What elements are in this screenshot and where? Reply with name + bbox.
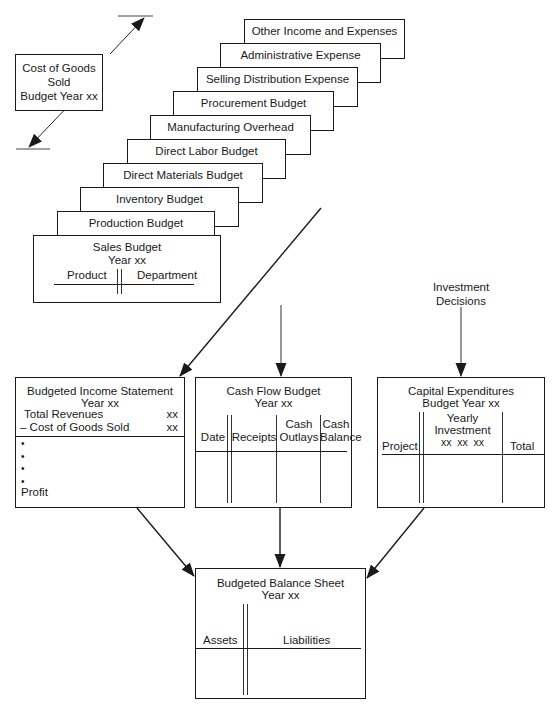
income-row-label: Total Revenues bbox=[24, 408, 103, 420]
stack-label: Direct Labor Budget bbox=[155, 145, 257, 157]
capex-col-yearly: Yearly Investment xx xx xx bbox=[423, 412, 502, 448]
investment-line-2: Decisions bbox=[421, 294, 501, 308]
col-line: Receipts bbox=[231, 431, 277, 444]
stack-label: Production Budget bbox=[89, 217, 184, 229]
col-line: Investment bbox=[423, 424, 502, 436]
col-line: xx xx xx bbox=[423, 436, 502, 448]
cash-col-date: Date bbox=[198, 418, 228, 444]
cash-col-outlays: Cash Outlays bbox=[277, 418, 321, 444]
sales-budget-year: Year xx bbox=[34, 253, 220, 267]
col-line: Balance bbox=[320, 431, 352, 444]
cash-col-balance: Cash Balance bbox=[320, 418, 352, 444]
balance-col-assets: Assets bbox=[203, 634, 238, 646]
sales-budget-box: Sales Budget Year xx Product Department bbox=[33, 235, 221, 303]
cash-header-rule bbox=[196, 451, 347, 452]
bullet: • bbox=[21, 451, 25, 464]
cash-flow-budget-box: Cash Flow Budget Year xx Date Receipts C… bbox=[195, 377, 352, 508]
balance-divider bbox=[247, 604, 248, 695]
col-line bbox=[231, 418, 277, 431]
balance-divider bbox=[243, 604, 244, 695]
col-line bbox=[198, 418, 228, 431]
cogs-line-1: Cost of Goods bbox=[16, 61, 102, 75]
capex-col-total: Total bbox=[510, 440, 534, 452]
stack-label: Procurement Budget bbox=[201, 97, 306, 109]
col-line: Outlays bbox=[277, 431, 321, 444]
stack-label: Inventory Budget bbox=[116, 193, 203, 205]
stack-label: Direct Materials Budget bbox=[123, 169, 243, 181]
col-line: Yearly bbox=[423, 412, 502, 424]
cogs-budget-box: Cost of Goods Sold Budget Year xx bbox=[15, 54, 103, 111]
income-header-rule bbox=[16, 436, 184, 437]
sales-header-rule bbox=[54, 284, 194, 285]
bullet: • bbox=[21, 463, 25, 476]
budgeted-balance-sheet-box: Budgeted Balance Sheet Year xx Assets Li… bbox=[195, 568, 366, 699]
capex-year: Budget Year xx bbox=[378, 396, 544, 410]
capex-col-project: Project bbox=[382, 440, 418, 452]
income-row-value: xx bbox=[167, 408, 179, 420]
income-bullets: • • • • bbox=[21, 438, 25, 488]
capex-divider bbox=[419, 412, 420, 503]
balance-col-liabilities: Liabilities bbox=[283, 634, 330, 646]
balance-header-rule bbox=[196, 648, 361, 649]
cogs-line-2: Sold bbox=[16, 75, 102, 89]
cash-flow-year: Year xx bbox=[196, 396, 351, 410]
budgeted-income-statement-box: Budgeted Income Statement Year xx Total … bbox=[15, 377, 185, 508]
sales-divider-b bbox=[121, 269, 122, 294]
sales-divider-a bbox=[117, 269, 118, 294]
investment-line-1: Investment bbox=[421, 280, 501, 294]
sales-col-department: Department bbox=[137, 269, 197, 281]
bullet: • bbox=[21, 438, 25, 451]
balance-year: Year xx bbox=[196, 588, 365, 602]
income-row-value: xx bbox=[167, 421, 179, 433]
capex-header-rule bbox=[382, 454, 544, 455]
sales-budget-title: Sales Budget bbox=[34, 240, 220, 254]
capital-expenditures-budget-box: Capital Expenditures Budget Year xx Proj… bbox=[377, 377, 545, 508]
investment-decisions-label: Investment Decisions bbox=[421, 280, 501, 308]
income-row-label: – Cost of Goods Sold bbox=[20, 421, 129, 433]
capex-divider bbox=[502, 412, 503, 503]
cogs-line-3: Budget Year xx bbox=[16, 89, 102, 103]
cash-col-receipts: Receipts bbox=[231, 418, 277, 444]
col-line: Date bbox=[198, 431, 228, 444]
col-line: Cash bbox=[277, 418, 321, 431]
col-line: Cash bbox=[320, 418, 352, 431]
income-profit: Profit bbox=[21, 486, 48, 498]
sales-col-product: Product bbox=[67, 269, 107, 281]
